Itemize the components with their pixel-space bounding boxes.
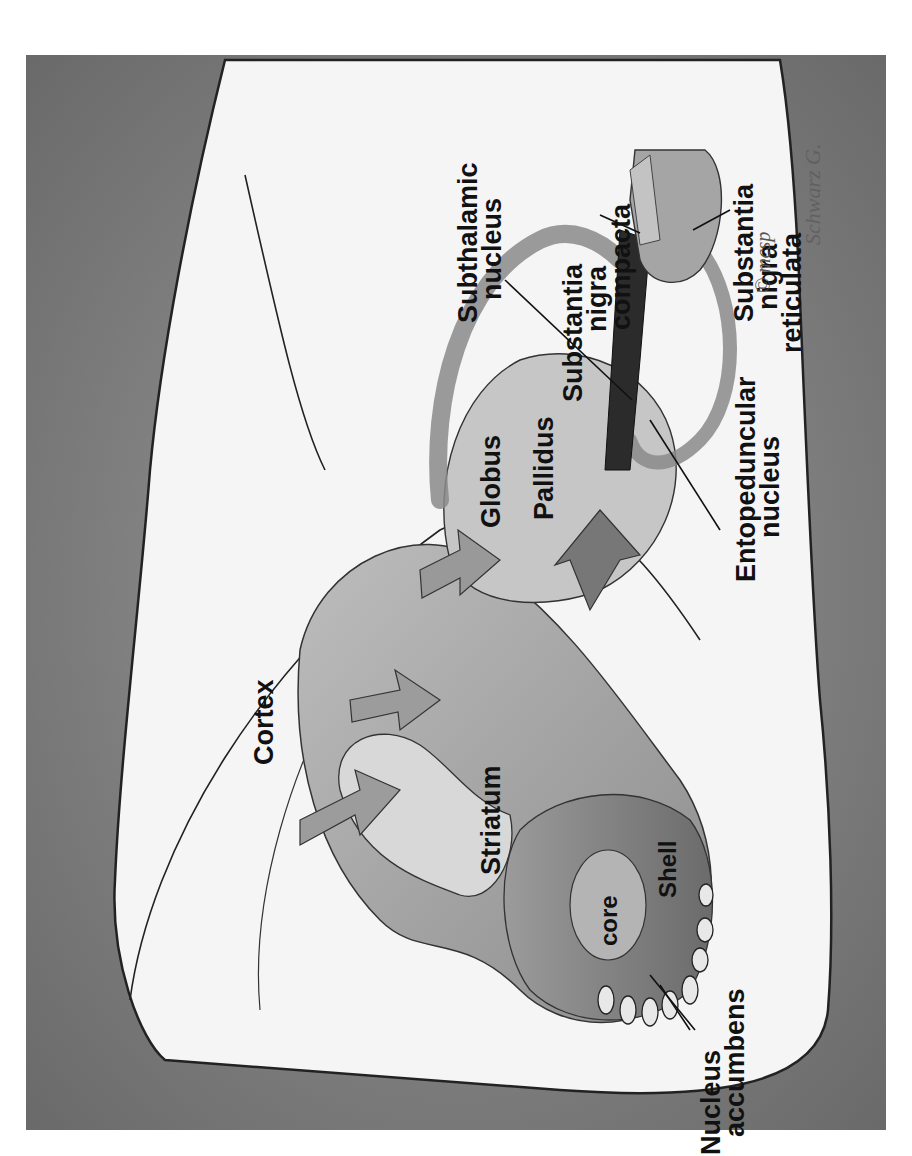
label-globus: Globus [476, 435, 506, 528]
label-core: core [595, 895, 622, 946]
label-subthalamic-line2: nucleus [477, 198, 507, 300]
label-striatum: Striatum [476, 765, 506, 875]
basal-ganglia-diagram: Substantia nigra compacta Substantia nig… [0, 0, 912, 1156]
label-shell: Shell [654, 841, 681, 898]
artist-signature: Schwarz G. [800, 144, 825, 245]
copyright-mark: © mcsp [752, 232, 775, 293]
label-accumbens-line2: accumbens [720, 988, 750, 1137]
label-sn-reticulata-line3: reticulata [777, 232, 807, 353]
label-entopeduncular-line2: nucleus [755, 436, 785, 538]
label-cortex: Cortex [249, 679, 279, 765]
label-sn-compacta-line3: compacta [606, 203, 636, 330]
label-pallidus: Pallidus [529, 416, 559, 520]
